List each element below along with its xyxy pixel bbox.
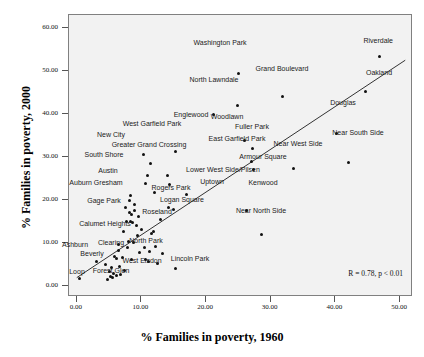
scatter-plot-figure: % Families in poverty, 2000 % Families i… — [0, 0, 424, 357]
data-point-label: Beverly — [80, 250, 103, 258]
x-axis-title: % Families in poverty, 1960 — [0, 330, 424, 345]
data-point — [172, 208, 175, 211]
data-point — [140, 228, 143, 231]
data-point — [133, 203, 136, 206]
data-point — [104, 263, 107, 266]
data-point — [260, 233, 263, 236]
data-point-label: Roseland — [142, 208, 172, 216]
y-tick-label: 40.00 — [18, 109, 58, 117]
data-point — [174, 150, 177, 153]
data-point — [251, 147, 254, 150]
x-tick-label: 10.00 — [120, 303, 160, 311]
x-tick-mark — [334, 296, 335, 302]
x-tick-label: 40.00 — [314, 303, 354, 311]
data-point — [115, 257, 118, 260]
data-point — [130, 213, 133, 216]
data-point — [236, 104, 239, 107]
data-point-label: North Lawndale — [189, 76, 238, 84]
data-point-label: Englewood — [174, 111, 209, 119]
data-point-label: East Garfield Park — [209, 135, 266, 143]
data-point-label: Near South Side — [332, 129, 383, 137]
data-point-label: West Garfield Park — [123, 120, 182, 128]
data-point — [292, 167, 295, 170]
data-point — [237, 72, 240, 75]
data-point — [281, 95, 284, 98]
data-point-label: Auburn Gresham — [69, 179, 122, 187]
data-point-label: Near North Side — [236, 207, 286, 215]
data-point-label: Rogers Park — [152, 184, 191, 192]
x-tick-mark — [270, 296, 271, 302]
data-point-label: Austin — [98, 167, 117, 175]
data-point-label: Grand Boulevard — [256, 65, 309, 73]
data-point — [124, 206, 127, 209]
data-point-label: Near West Side — [274, 140, 323, 148]
data-point — [126, 246, 129, 249]
data-point — [149, 162, 152, 165]
data-point — [143, 246, 146, 249]
data-point — [137, 215, 140, 218]
data-point — [148, 250, 151, 253]
x-tick-label: 20.00 — [185, 303, 225, 311]
data-point-label: Forest Glen — [93, 267, 130, 275]
y-tick-label: 20.00 — [18, 195, 58, 203]
data-point-label: New City — [97, 131, 125, 139]
x-tick-label: 0.00 — [56, 303, 96, 311]
data-point-label: Lincoln Park — [171, 255, 210, 263]
data-point-label: Armour Square — [239, 153, 286, 161]
data-point-label: Douglas — [330, 99, 356, 107]
data-point-label: Ashburn — [62, 241, 88, 249]
data-point — [347, 161, 350, 164]
y-tick-label: 0.00 — [18, 281, 58, 289]
data-point — [117, 249, 120, 252]
data-point-label: South Shore — [85, 151, 124, 159]
x-tick-label: 30.00 — [250, 303, 290, 311]
data-point-label: West Elsdon — [122, 257, 161, 265]
y-tick-label: 60.00 — [18, 23, 58, 31]
data-point — [128, 199, 131, 202]
x-tick-mark — [76, 296, 77, 302]
data-point — [95, 260, 98, 263]
data-point — [144, 182, 147, 185]
data-point-label: Riverdale — [363, 37, 393, 45]
data-point — [122, 230, 125, 233]
data-point-label: Calumet Heights — [79, 220, 131, 228]
data-point — [131, 221, 134, 224]
y-tick-label: 10.00 — [18, 238, 58, 246]
data-point-label: North Park — [129, 237, 162, 245]
stats-annotation: R = 0.78, p < 0.01 — [348, 269, 403, 278]
data-point — [142, 153, 145, 156]
data-point-label: Loop — [69, 268, 85, 276]
data-point — [78, 277, 81, 280]
y-tick-label: 50.00 — [18, 66, 58, 74]
y-tick-label: 30.00 — [18, 152, 58, 160]
data-point-label: Lower West Side/Pilsen — [186, 166, 260, 174]
data-point-label: Oakland — [366, 69, 392, 77]
data-point — [166, 174, 169, 177]
data-point-label: Clearing — [98, 239, 124, 247]
data-point — [138, 251, 141, 254]
x-tick-mark — [205, 296, 206, 302]
data-point — [378, 55, 381, 58]
data-point — [133, 209, 136, 212]
x-tick-mark — [399, 296, 400, 302]
data-point-label: Gage Park — [87, 197, 120, 205]
data-point-label: Kenwood — [248, 179, 277, 187]
data-point — [161, 252, 164, 255]
data-point — [106, 278, 109, 281]
data-point-label: Uptown — [200, 178, 224, 186]
plot-inner: RiverdaleWashington ParkOaklandGrand Bou… — [69, 15, 411, 295]
data-point — [174, 267, 177, 270]
x-tick-label: 50.00 — [379, 303, 419, 311]
data-point-label: Fuller Park — [235, 123, 269, 131]
data-point-label: Woodlawn — [211, 113, 244, 121]
data-point — [146, 174, 149, 177]
data-point — [159, 218, 162, 221]
data-point-label: Logan Square — [160, 196, 204, 204]
data-point — [150, 232, 153, 235]
data-point-label: Greater Grand Crossing — [112, 141, 187, 149]
x-tick-mark — [140, 296, 141, 302]
data-point-label: Washington Park — [193, 39, 246, 47]
data-point — [111, 276, 114, 279]
data-point — [154, 245, 157, 248]
plot-area: RiverdaleWashington ParkOaklandGrand Bou… — [68, 14, 412, 296]
